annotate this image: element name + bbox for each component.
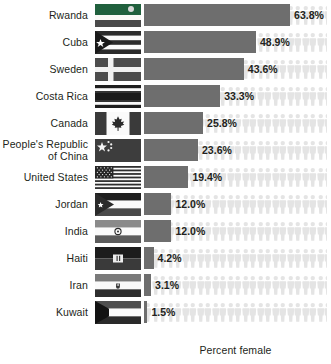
jordan-flag <box>95 193 141 216</box>
person-icon <box>234 248 242 268</box>
person-icon <box>302 32 310 52</box>
person-icon <box>309 113 317 133</box>
person-icon <box>264 113 272 133</box>
person-icon <box>287 59 295 79</box>
person-icon <box>317 248 325 268</box>
person-icon <box>294 140 302 160</box>
value-bar <box>144 4 290 26</box>
person-icon <box>287 248 295 268</box>
person-icon <box>212 221 220 241</box>
bar-value-label: 23.6% <box>198 139 232 161</box>
person-icon <box>279 275 287 295</box>
bar-value-label: 12.0% <box>171 220 205 242</box>
person-icon <box>279 140 287 160</box>
person-icon <box>234 140 242 160</box>
person-icon <box>287 194 295 214</box>
person-icon <box>204 248 212 268</box>
person-icon <box>324 221 327 241</box>
bar-value-label: 12.0% <box>171 193 205 215</box>
person-icon <box>249 275 257 295</box>
person-icon <box>242 221 250 241</box>
person-icon <box>264 221 272 241</box>
person-icon <box>212 302 220 322</box>
cuba-flag <box>95 31 141 54</box>
country-label: United States <box>0 164 92 191</box>
person-icon <box>324 167 327 187</box>
person-icon <box>309 59 317 79</box>
haiti-flag <box>95 247 141 270</box>
person-icon <box>204 275 212 295</box>
person-icon <box>257 275 265 295</box>
value-bar <box>144 193 171 215</box>
person-icon <box>257 86 265 106</box>
sweden-flag <box>95 58 141 81</box>
person-icon <box>309 221 317 241</box>
chart-row: India 12.0% <box>0 218 331 245</box>
chart-row: Canada 25.8% <box>0 110 331 137</box>
person-icon <box>309 248 317 268</box>
person-icon <box>212 248 220 268</box>
person-icon <box>309 302 317 322</box>
value-bar <box>144 31 256 53</box>
chart-row: Haiti 4.2% <box>0 245 331 272</box>
rwanda-flag <box>95 4 141 27</box>
person-icon <box>279 221 287 241</box>
chart-row: Costa Rica 33.3% <box>0 83 331 110</box>
country-label: Iran <box>0 272 92 299</box>
person-icon <box>294 167 302 187</box>
person-icon <box>234 194 242 214</box>
person-icon <box>294 86 302 106</box>
person-icon <box>287 221 295 241</box>
person-icon <box>324 86 327 106</box>
india-flag <box>95 220 141 243</box>
person-icon <box>272 167 280 187</box>
chart-row: Sweden 43.6% <box>0 56 331 83</box>
country-label: Canada <box>0 110 92 137</box>
person-icon <box>279 248 287 268</box>
person-icon <box>317 167 325 187</box>
person-icon <box>242 248 250 268</box>
chart-row: Jordan 12.0% <box>0 191 331 218</box>
person-icon <box>317 140 325 160</box>
person-icon <box>249 221 257 241</box>
person-icon <box>257 167 265 187</box>
person-icon <box>227 194 235 214</box>
value-bar <box>144 274 151 296</box>
person-icon <box>279 167 287 187</box>
bar-value-label: 3.1% <box>151 274 179 296</box>
person-icon <box>294 113 302 133</box>
person-icon <box>317 275 325 295</box>
country-label: Cuba <box>0 29 92 56</box>
person-icon <box>287 113 295 133</box>
country-label: Rwanda <box>0 2 92 29</box>
country-label: Sweden <box>0 56 92 83</box>
person-icon <box>302 113 310 133</box>
person-icon <box>279 86 287 106</box>
person-icon <box>302 59 310 79</box>
person-icon <box>324 59 327 79</box>
person-icon <box>197 248 205 268</box>
person-icon <box>227 248 235 268</box>
person-icon <box>227 275 235 295</box>
person-icon <box>264 248 272 268</box>
person-icon <box>257 194 265 214</box>
person-icon <box>272 86 280 106</box>
bar-value-label: 19.4% <box>188 166 222 188</box>
person-icon <box>257 221 265 241</box>
person-icon <box>249 167 257 187</box>
person-icon <box>324 248 327 268</box>
person-icon <box>212 275 220 295</box>
person-icon <box>272 302 280 322</box>
person-icon <box>287 140 295 160</box>
value-bar <box>144 112 203 134</box>
country-label: Haiti <box>0 245 92 272</box>
person-icon <box>324 275 327 295</box>
person-icon <box>324 5 327 25</box>
person-icon <box>294 221 302 241</box>
bar-value-label: 1.5% <box>147 301 175 323</box>
country-label: Jordan <box>0 191 92 218</box>
person-icon <box>302 86 310 106</box>
united-states-flag <box>95 166 141 189</box>
bar-value-label: 63.8% <box>290 4 324 26</box>
person-icon <box>249 302 257 322</box>
